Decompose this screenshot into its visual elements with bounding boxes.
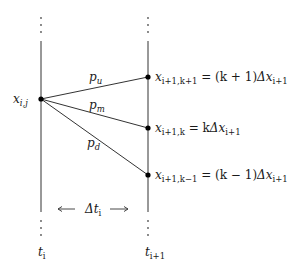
time-label-right: ti+1 xyxy=(145,245,165,261)
target-node-down-label: xi+1,k−1 = (k − 1)Δxi+1 xyxy=(155,168,288,184)
source-node-label: xi,j xyxy=(13,92,28,108)
target-node-up-dot xyxy=(145,74,150,79)
target-node-up-label: xi+1,k+1 = (k + 1)Δxi+1 xyxy=(155,70,288,86)
target-node-down-dot xyxy=(145,172,150,177)
time-step-annotation: Δti xyxy=(58,202,128,218)
prob-down-label: pd xyxy=(87,136,101,152)
prob-mid-label: pm xyxy=(89,98,105,114)
left-time-axis xyxy=(40,17,42,236)
target-node-mid-dot xyxy=(145,125,150,130)
source-node-dot xyxy=(38,96,43,101)
prob-up-label: pu xyxy=(89,70,102,86)
time-label-left: ti xyxy=(38,245,46,261)
svg-text:Δti: Δti xyxy=(84,202,102,218)
target-node-mid-label: xi+1,k = kΔxi+1 xyxy=(155,121,241,137)
trinomial-tree-diagram: xi,j pu pm pd xi+1,k+1 = (k + 1)Δxi+1 xi… xyxy=(0,0,297,271)
